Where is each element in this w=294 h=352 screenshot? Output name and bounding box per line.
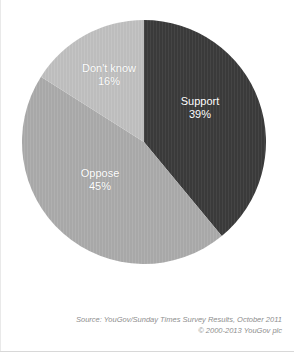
pie-label-support-name: Support	[181, 95, 220, 107]
pie-label-oppose-name: Oppose	[81, 167, 120, 179]
pie-label-support: Support 39%	[160, 95, 240, 121]
footer-copyright-line: © 2000-2013 YouGov plc	[0, 325, 282, 336]
pie-chart: Support 39% Oppose 45% Don't know 16%	[0, 0, 294, 300]
chart-footer: Source: YouGov/Sunday Times Survey Resul…	[0, 314, 294, 336]
pie-label-oppose: Oppose 45%	[58, 167, 142, 193]
pie-label-dont-know-name: Don't know	[82, 62, 136, 74]
pie-label-oppose-value: 45%	[58, 180, 142, 193]
footer-source-line: Source: YouGov/Sunday Times Survey Resul…	[0, 314, 282, 325]
pie-label-dont-know-value: 16%	[62, 75, 156, 88]
chart-page: Support 39% Oppose 45% Don't know 16% So…	[0, 0, 294, 352]
pie-label-dont-know: Don't know 16%	[62, 62, 156, 88]
pie-chart-svg	[21, 19, 267, 265]
pie-label-support-value: 39%	[160, 108, 240, 121]
